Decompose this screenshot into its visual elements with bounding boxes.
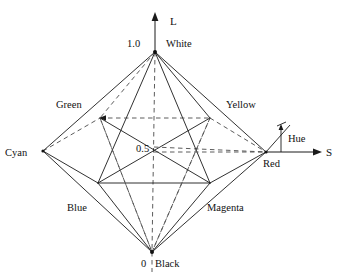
- vertex-label-white: White: [166, 38, 192, 49]
- tick-label-top: 1.0: [127, 38, 140, 49]
- edge-black-blue: [98, 183, 152, 252]
- hex-edge-cyan-blue: [43, 151, 98, 183]
- radius-dashed-to-red: [154, 147, 266, 152]
- hue-label: Hue: [288, 133, 306, 144]
- s-axis-arrowhead: [313, 149, 322, 156]
- l-axis-arrowhead: [152, 12, 159, 21]
- vertex-label-blue: Blue: [67, 202, 87, 213]
- vertex-dot-white: [153, 50, 157, 54]
- vertex-dot-black: [150, 250, 154, 254]
- vertex-label-yellow: Yellow: [226, 99, 256, 110]
- hue-ray: [266, 125, 290, 152]
- edge-white-green-dashed: [100, 52, 155, 118]
- mid-hexagon: [43, 115, 266, 183]
- saturation-radius-indicator: [154, 147, 266, 152]
- vertex-dot-red: [264, 150, 267, 153]
- hls-double-hexcone-figure: L S Hue 1.0 0.5 0 White Black Cyan Red G…: [0, 0, 344, 280]
- vertex-label-red: Red: [263, 158, 281, 169]
- edge-black-cyan: [43, 151, 152, 252]
- vertex-label-cyan: Cyan: [5, 147, 28, 158]
- diagram-canvas: L S Hue 1.0 0.5 0 White Black Cyan Red G…: [0, 0, 344, 280]
- edge-white-magenta: [155, 52, 210, 183]
- inscribed-triangles: [98, 118, 210, 252]
- hex-edge-magenta-red: [210, 152, 266, 183]
- hue-annotation: [266, 122, 290, 152]
- vertex-label-green: Green: [56, 99, 82, 110]
- vertex-label-black: Black: [155, 258, 180, 269]
- axis-label-s: S: [326, 146, 332, 158]
- hex-edge-yellow-red: [210, 118, 266, 152]
- tick-label-mid: 0.5: [136, 143, 149, 154]
- edge-black-magenta: [152, 183, 210, 252]
- hex-edge-cyan-green: [43, 118, 100, 151]
- vertex-label-magenta: Magenta: [207, 202, 244, 213]
- vertex-dot-cyan: [41, 149, 44, 152]
- saturation-axis: [266, 149, 322, 156]
- edge-white-blue: [98, 52, 155, 183]
- tick-label-bottom: 0: [141, 258, 146, 269]
- axis-label-l: L: [170, 15, 177, 27]
- edge-white-yellow: [155, 52, 210, 118]
